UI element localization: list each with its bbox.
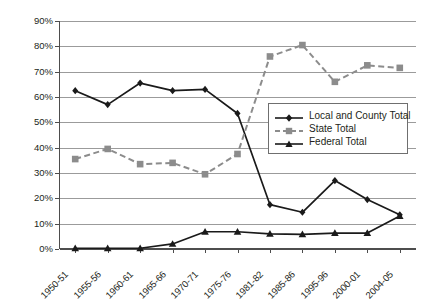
- legend-item-local-and-county-total: Local and County Total: [274, 109, 401, 122]
- y-axis-tick-label: 80%: [7, 42, 53, 52]
- line-chart: 0%10%20%30%40%50%60%70%80%90% 1950-51195…: [0, 0, 437, 305]
- y-axis-tick-label: 20%: [7, 194, 53, 204]
- y-axis-tick-label: 60%: [7, 92, 53, 102]
- x-axis-tick-label: 1950-51: [38, 269, 70, 301]
- x-axis-tick-label: 1975-76: [201, 269, 233, 301]
- legend-item-federal-total: Federal Total: [274, 135, 401, 148]
- legend-key-triangle-icon: [274, 136, 304, 148]
- y-axis-tick-label: 0%: [7, 244, 53, 254]
- x-axis-tick-mark: [173, 249, 174, 253]
- x-axis-tick-mark: [302, 249, 303, 253]
- gridline: [60, 46, 416, 47]
- y-axis-tick-label: 70%: [7, 67, 53, 77]
- y-axis-tick-label: 90%: [7, 16, 53, 26]
- x-axis-tick-label: 1995-96: [298, 269, 330, 301]
- legend-key-diamond-icon: [274, 110, 304, 122]
- y-axis-tick-label: 30%: [7, 168, 53, 178]
- x-axis-tick-mark: [205, 249, 206, 253]
- x-axis-tick-mark: [140, 249, 141, 253]
- legend-label: Federal Total: [309, 137, 367, 147]
- gridline: [60, 198, 416, 199]
- x-axis-tick-label: 1955-56: [71, 269, 103, 301]
- y-axis-tick-mark: [55, 249, 59, 250]
- legend-label: State Total: [309, 124, 356, 134]
- legend-item-state-total: State Total: [274, 122, 401, 135]
- x-axis-tick-mark: [270, 249, 271, 253]
- x-axis-tick-label: 1960-61: [103, 269, 135, 301]
- x-axis-tick-label: 1981-82: [233, 269, 265, 301]
- gridline: [60, 21, 416, 22]
- chart-legend: Local and County Total State Total Feder…: [268, 103, 408, 154]
- gridline: [60, 173, 416, 174]
- y-axis-tick-label: 10%: [7, 219, 53, 229]
- x-axis-tick-label: 1985-86: [266, 269, 298, 301]
- y-axis-tick-label: 40%: [7, 143, 53, 153]
- y-axis-tick-label: 50%: [7, 118, 53, 128]
- legend-key-square-icon: [274, 123, 304, 135]
- x-axis-tick-mark: [367, 249, 368, 253]
- gridline: [60, 224, 416, 225]
- x-axis-tick-label: 2000-01: [331, 269, 363, 301]
- x-axis-tick-mark: [75, 249, 76, 253]
- x-axis-tick-mark: [400, 249, 401, 253]
- x-axis-tick-mark: [238, 249, 239, 253]
- gridline: [60, 72, 416, 73]
- x-axis-tick-label: 1965-66: [136, 269, 168, 301]
- x-axis-tick-label: 2004-05: [363, 269, 395, 301]
- x-axis-tick-mark: [335, 249, 336, 253]
- x-axis-tick-mark: [108, 249, 109, 253]
- x-axis-tick-label: 1970-71: [168, 269, 200, 301]
- legend-label: Local and County Total: [309, 111, 411, 121]
- gridline: [60, 97, 416, 98]
